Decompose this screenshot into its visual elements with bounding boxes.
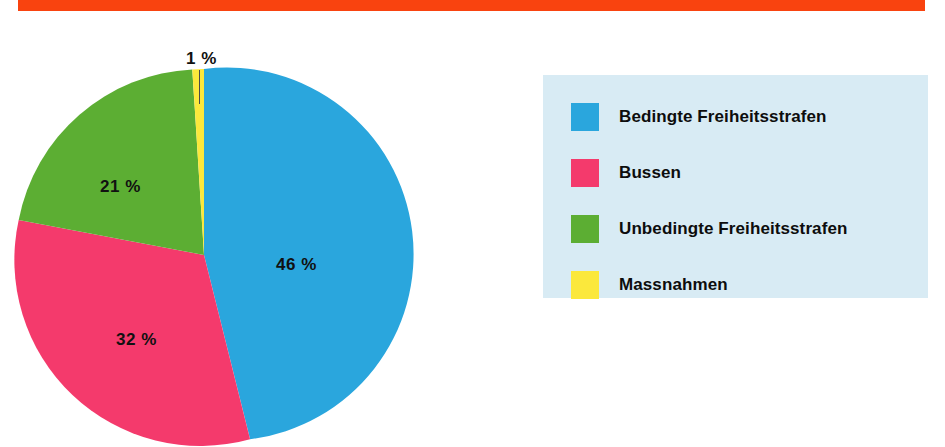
top-accent-bar [18,0,925,11]
chart-legend: Bedingte Freiheitsstrafen Bussen Unbedin… [543,75,928,298]
pie-label-massnahmen: 1 % [186,50,217,67]
legend-item-label: Unbedingte Freiheitsstrafen [619,219,847,239]
pie-chart-svg [0,20,500,447]
pie-label-bussen: 32 % [116,331,157,348]
legend-item-unbedingte-freiheitsstrafen[interactable]: Unbedingte Freiheitsstrafen [571,201,911,257]
page-root: 46 % 32 % 21 % 1 % Bedingte Freiheitsstr… [0,0,945,447]
legend-item-massnahmen[interactable]: Massnahmen [571,257,911,313]
callout-leader-line [199,70,200,104]
pie-label-unbedingte-freiheitsstrafen: 21 % [100,178,141,195]
legend-item-bedingte-freiheitsstrafen[interactable]: Bedingte Freiheitsstrafen [571,89,911,145]
legend-swatch-icon [571,271,599,299]
legend-list: Bedingte Freiheitsstrafen Bussen Unbedin… [571,89,911,313]
legend-item-bussen[interactable]: Bussen [571,145,911,201]
legend-swatch-icon [571,215,599,243]
pie-label-bedingte-freiheitsstrafen: 46 % [276,256,317,273]
legend-item-label: Bedingte Freiheitsstrafen [619,107,827,127]
legend-item-label: Massnahmen [619,275,728,295]
legend-swatch-icon [571,159,599,187]
pie-chart: 46 % 32 % 21 % 1 % [0,20,500,447]
legend-item-label: Bussen [619,163,681,183]
legend-swatch-icon [571,103,599,131]
